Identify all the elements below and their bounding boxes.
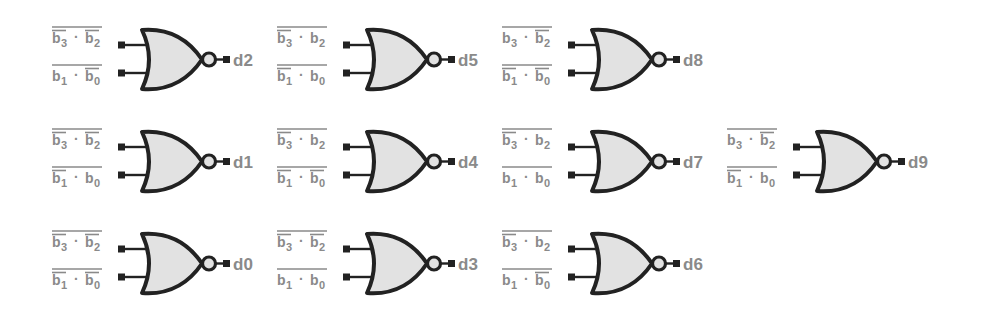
variable-subscript: 2 [544, 37, 550, 49]
and-dot: · [524, 131, 529, 147]
variable-subscript: 1 [286, 279, 292, 291]
variable-subscript: 1 [511, 177, 517, 189]
inversion-bubble [428, 155, 441, 168]
variable-subscript: 3 [286, 241, 292, 253]
and-dot: · [524, 271, 529, 287]
variable-label: b [85, 30, 94, 46]
input-term-label: b3·b2 [52, 231, 102, 253]
variable-label: b [727, 170, 736, 186]
inversion-bubble [203, 53, 216, 66]
input-pin-1 [343, 42, 350, 49]
input-term-label: b1·b0 [277, 269, 327, 291]
variable-subscript: 3 [736, 139, 742, 151]
variable-subscript: 0 [319, 75, 325, 87]
variable-label: b [535, 170, 544, 186]
variable-subscript: 0 [94, 177, 100, 189]
variable-label: b [760, 132, 769, 148]
input-pin-1 [118, 42, 125, 49]
inversion-bubble [878, 155, 891, 168]
and-dot: · [74, 233, 79, 249]
variable-label: b [502, 170, 511, 186]
and-dot: · [299, 29, 304, 45]
variable-label: b [85, 234, 94, 250]
variable-label: b [727, 132, 736, 148]
input-term-label: b1·b0 [52, 65, 102, 87]
variable-subscript: 1 [61, 75, 67, 87]
variable-subscript: 3 [511, 139, 517, 151]
output-label: d4 [458, 153, 478, 172]
output-pin [673, 56, 680, 63]
nor-gate-d7: b3·b2b1·b0d7 [502, 129, 703, 191]
input-pin-1 [568, 246, 575, 253]
variable-subscript: 3 [61, 241, 67, 253]
output-label: d9 [908, 153, 928, 172]
input-term-label: b3·b2 [52, 129, 102, 151]
inversion-bubble [653, 155, 666, 168]
variable-label: b [277, 170, 286, 186]
nor-gate-body [367, 30, 427, 90]
and-dot: · [74, 131, 79, 147]
variable-label: b [277, 132, 286, 148]
variable-label: b [502, 272, 511, 288]
variable-label: b [535, 234, 544, 250]
nor-gate-body [367, 234, 427, 294]
variable-label: b [310, 68, 319, 84]
variable-subscript: 1 [61, 279, 67, 291]
nor-gate-d6: b3·b2b1·b0d6 [502, 231, 703, 293]
nor-gate-d1: b3·b2b1·b0d1 [52, 129, 253, 191]
variable-label: b [52, 132, 61, 148]
inversion-bubble [428, 53, 441, 66]
nor-gate-d9: b3·b2b1·b0d9 [727, 129, 928, 191]
and-dot: · [749, 131, 754, 147]
variable-label: b [760, 170, 769, 186]
nor-gate-body [142, 234, 202, 294]
output-pin [673, 260, 680, 267]
and-dot: · [74, 29, 79, 45]
inversion-bubble [203, 155, 216, 168]
nor-gate-d8: b3·b2b1·b0d8 [502, 27, 703, 89]
variable-label: b [535, 68, 544, 84]
variable-label: b [52, 272, 61, 288]
variable-subscript: 1 [286, 75, 292, 87]
variable-label: b [502, 234, 511, 250]
inversion-bubble [653, 53, 666, 66]
variable-label: b [85, 170, 94, 186]
variable-label: b [502, 132, 511, 148]
nor-gate-body [592, 234, 652, 294]
input-pin-1 [568, 144, 575, 151]
input-term-label: b3·b2 [277, 27, 327, 49]
output-label: d2 [233, 51, 253, 70]
output-label: d1 [233, 153, 253, 172]
nor-gate-body [592, 30, 652, 90]
input-term-label: b3·b2 [277, 231, 327, 253]
variable-label: b [502, 30, 511, 46]
input-term-label: b3·b2 [502, 129, 552, 151]
nor-decoder-diagram: b3·b2b1·b0d2b3·b2b1·b0d5b3·b2b1·b0d8b3·b… [0, 0, 991, 329]
input-pin-2 [118, 70, 125, 77]
output-label: d8 [683, 51, 703, 70]
and-dot: · [74, 67, 79, 83]
input-pin-1 [568, 42, 575, 49]
input-term-label: b1·b0 [277, 167, 327, 189]
variable-subscript: 1 [511, 75, 517, 87]
input-pin-2 [568, 70, 575, 77]
output-label: d7 [683, 153, 703, 172]
variable-label: b [535, 272, 544, 288]
input-pin-2 [568, 274, 575, 281]
and-dot: · [524, 169, 529, 185]
variable-subscript: 3 [511, 37, 517, 49]
variable-subscript: 3 [61, 37, 67, 49]
output-label: d0 [233, 255, 253, 274]
input-term-label: b1·b0 [277, 65, 327, 87]
output-pin [448, 56, 455, 63]
nor-gate-d4: b3·b2b1·b0d4 [277, 129, 478, 191]
input-term-label: b1·b0 [727, 167, 777, 189]
variable-subscript: 2 [94, 241, 100, 253]
input-term-label: b1·b0 [52, 269, 102, 291]
input-pin-2 [343, 274, 350, 281]
variable-subscript: 0 [94, 279, 100, 291]
nor-gate-body [142, 30, 202, 90]
input-term-label: b1·b0 [502, 167, 552, 189]
and-dot: · [299, 271, 304, 287]
variable-label: b [277, 68, 286, 84]
